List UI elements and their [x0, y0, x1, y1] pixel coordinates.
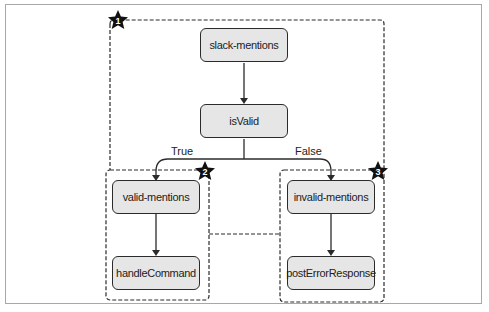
node-post-error-response: postErrorResponse: [287, 256, 375, 290]
edge-label-true: True: [171, 145, 193, 157]
badge-number: 2: [194, 160, 216, 182]
node-slack-mentions: slack-mentions: [200, 28, 288, 62]
group-3-badge: 3: [367, 160, 389, 182]
group-2-badge: 2: [194, 160, 216, 182]
node-handle-command: handleCommand: [112, 256, 200, 290]
badge-number: 1: [107, 9, 129, 31]
edge-label-false: False: [295, 145, 322, 157]
node-is-valid: isValid: [200, 104, 288, 138]
badge-number: 3: [367, 160, 389, 182]
node-valid-mentions: valid-mentions: [112, 180, 200, 214]
group-1-badge: 1: [107, 9, 129, 31]
node-invalid-mentions: invalid-mentions: [287, 180, 375, 214]
